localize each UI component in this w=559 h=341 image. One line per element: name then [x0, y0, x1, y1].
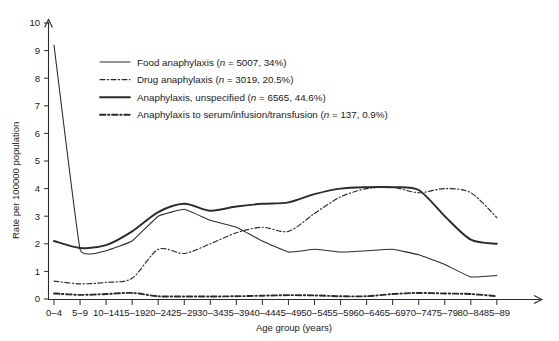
x-tick-label: 75–79 [432, 307, 458, 318]
x-tick-label: 55–59 [327, 307, 353, 318]
y-axis: 012345678910 Rate per 100000 population [10, 17, 52, 304]
legend-label: Food anaphylaxis (n = 5007, 34%) [137, 57, 287, 68]
series-line [54, 187, 497, 248]
y-tick-label: 3 [35, 211, 40, 222]
x-tick-label: 80–84 [458, 307, 484, 318]
x-tick-label: 40–44 [249, 307, 275, 318]
x-tick-label: 20–24 [145, 307, 171, 318]
y-tick-label: 6 [35, 128, 40, 139]
x-tick-label: 25–29 [171, 307, 197, 318]
x-tick-label: 10–14 [93, 307, 119, 318]
y-tick-label: 0 [35, 293, 40, 304]
y-tick-group: 012345678910 [29, 17, 48, 304]
y-axis-label: Rate per 100000 population [10, 122, 21, 239]
x-tick-label: 70–74 [405, 307, 431, 318]
line-chart-svg: 012345678910 Rate per 100000 population … [0, 0, 559, 341]
legend-label: Anaphylaxis to serum/infusion/transfusio… [137, 109, 388, 120]
x-tick-label: 5–9 [72, 307, 88, 318]
x-tick-label: 60–64 [353, 307, 379, 318]
y-tick-label: 9 [35, 45, 40, 56]
y-tick-label: 2 [35, 238, 40, 249]
x-tick-group: 0–45–910–1415–1920–2425–2930–3435–3940–4… [46, 300, 510, 319]
x-tick-label: 35–39 [223, 307, 249, 318]
chart-figure: 012345678910 Rate per 100000 population … [0, 0, 559, 341]
x-tick-label: 45–49 [275, 307, 301, 318]
x-axis-label: Age group (years) [256, 322, 332, 333]
y-tick-label: 4 [35, 183, 40, 194]
y-tick-label: 7 [35, 100, 40, 111]
x-tick-label: 85–89 [484, 307, 510, 318]
y-tick-label: 10 [29, 17, 40, 28]
legend-label: Drug anaphylaxis (n = 3019, 20.5%) [137, 74, 294, 85]
legend-label: Anaphylaxis, unspecified (n = 6565, 44.6… [137, 92, 326, 103]
x-tick-label: 50–54 [301, 307, 327, 318]
y-tick-label: 1 [35, 266, 40, 277]
series-line [54, 293, 497, 297]
x-tick-label: 15–19 [119, 307, 145, 318]
x-tick-label: 0–4 [46, 307, 62, 318]
x-tick-label: 65–69 [379, 307, 405, 318]
y-tick-label: 8 [35, 73, 40, 84]
chart-legend: Food anaphylaxis (n = 5007, 34%)Drug ana… [100, 57, 388, 121]
y-tick-label: 5 [35, 155, 40, 166]
x-axis: 0–45–910–1415–1920–2425–2930–3435–3940–4… [46, 296, 542, 333]
x-tick-label: 30–34 [197, 307, 223, 318]
